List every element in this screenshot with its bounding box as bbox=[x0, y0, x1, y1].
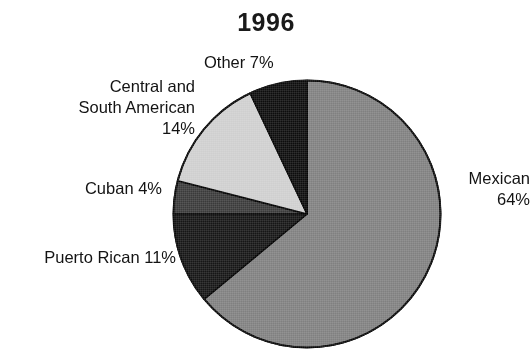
slice-label-puerto-rican: Puerto Rican 11% bbox=[4, 247, 176, 268]
pie-chart-figure: 1996 Other 7% Central and South American… bbox=[0, 0, 532, 360]
slice-label-cuban: Cuban 4% bbox=[10, 178, 162, 199]
slice-label-mexican: Mexican 64% bbox=[452, 168, 530, 210]
chart-title: 1996 bbox=[0, 8, 532, 37]
pie-chart-graphic bbox=[172, 79, 442, 349]
slice-label-other: Other 7% bbox=[204, 52, 274, 73]
pie-slices-group bbox=[174, 81, 441, 348]
slice-label-central-and-south-american: Central and South American 14% bbox=[10, 76, 195, 139]
pie-svg bbox=[172, 79, 442, 349]
